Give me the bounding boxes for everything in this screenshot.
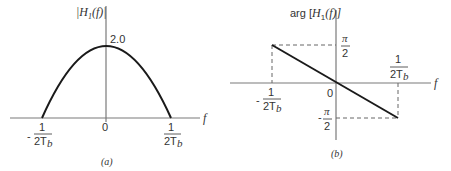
svg-text:1: 1 <box>395 53 401 65</box>
svg-text:1: 1 <box>39 121 45 133</box>
diagram-canvas: |H1(f)| 2.0 f 0 - 1 2T b 1 2T b (a) <box>0 0 451 171</box>
panel-b-left-tick-label: - 1 2T b <box>256 86 282 114</box>
panel-b-x-label: f <box>434 76 439 90</box>
svg-text:π: π <box>324 105 330 117</box>
svg-text:1: 1 <box>268 86 274 98</box>
panel-a-x-label: f <box>203 111 208 125</box>
svg-text:2: 2 <box>342 47 348 59</box>
panel-b-phase: arg [H1(f)] π 2 - π 2 0 f - 1 2T b 1 <box>230 6 439 160</box>
panel-a-peak-label: 2.0 <box>110 33 125 45</box>
panel-b-caption: (b) <box>331 148 343 160</box>
panel-b-bottom-tick-label: - π 2 <box>318 105 332 132</box>
panel-a-left-tick-label: - 1 2T b <box>27 121 53 149</box>
panel-a-y-label: |H1(f)| <box>76 5 107 21</box>
panel-b-right-tick-label: 1 2T b <box>390 53 409 82</box>
panel-a-caption: (a) <box>101 156 113 168</box>
svg-text:b: b <box>403 70 409 82</box>
svg-text:-: - <box>318 111 322 123</box>
svg-text:π: π <box>342 32 348 44</box>
svg-text:b: b <box>177 137 183 149</box>
svg-text:2T: 2T <box>263 100 276 112</box>
svg-text:b: b <box>47 137 53 149</box>
panel-b-y-label: arg [H1(f)] <box>290 6 341 22</box>
svg-text:2T: 2T <box>390 68 403 80</box>
svg-text:-: - <box>27 130 31 142</box>
svg-text:2T: 2T <box>164 135 177 147</box>
svg-text:-: - <box>256 94 260 106</box>
panel-a-origin-label: 0 <box>102 121 108 133</box>
svg-text:2T: 2T <box>34 135 47 147</box>
panel-a-magnitude: |H1(f)| 2.0 f 0 - 1 2T b 1 2T b (a) <box>10 5 208 168</box>
panel-b-origin-label: 0 <box>327 87 333 99</box>
panel-b-phase-line <box>272 45 398 118</box>
panel-b-top-tick-label: π 2 <box>341 32 350 59</box>
svg-text:1: 1 <box>168 121 174 133</box>
panel-a-right-tick-label: 1 2T b <box>164 121 183 149</box>
svg-text:b: b <box>276 102 282 114</box>
svg-text:2: 2 <box>324 120 330 132</box>
